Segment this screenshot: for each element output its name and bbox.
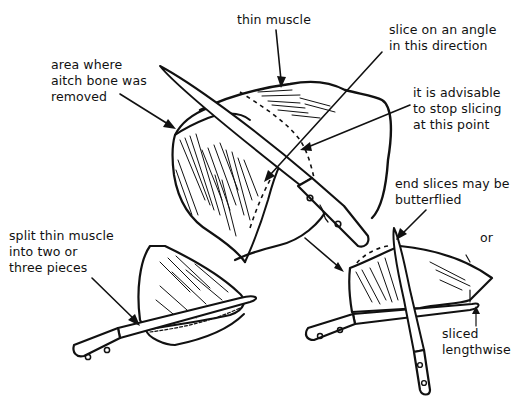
carving-diagram: thin muscle slice on an angle in this di…	[0, 0, 524, 413]
butterflied-slice-drawing	[306, 228, 492, 395]
label-or: or	[480, 230, 493, 246]
label-split-muscle: split thin muscle into two or three piec…	[9, 228, 114, 276]
label-end-slices: end slices may be butterflied	[395, 176, 510, 208]
label-thin-muscle: thin muscle	[237, 12, 311, 28]
main-knife-drawing	[160, 66, 368, 247]
label-slice-angle: slice on an angle in this direction	[389, 22, 496, 54]
label-sliced-lengthwise: sliced lengthwise	[442, 326, 511, 358]
label-aitch-bone: area where aitch bone was removed	[51, 57, 147, 105]
label-stop-slicing: it is advisable to stop slicing at this …	[413, 85, 502, 133]
